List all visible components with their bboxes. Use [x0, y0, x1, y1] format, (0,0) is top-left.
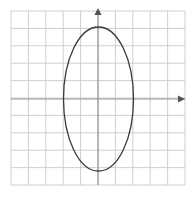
figure-container	[0, 0, 194, 197]
coordinate-plane-figure	[0, 0, 194, 197]
